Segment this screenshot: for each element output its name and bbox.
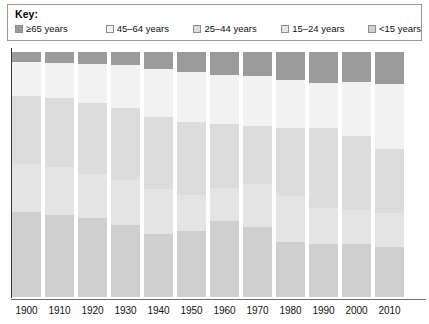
- x-axis-tick-label: 1990: [309, 302, 342, 320]
- legend-swatch-icon: [15, 25, 23, 33]
- bar-segment: [45, 63, 74, 99]
- bar-segment: [276, 52, 305, 80]
- bar-segment: [111, 225, 140, 297]
- bar-column[interactable]: [144, 52, 177, 297]
- bar-segment: [177, 195, 206, 231]
- bar-segment: [309, 128, 338, 208]
- bar-segment: [144, 189, 173, 234]
- bar-column[interactable]: [375, 52, 408, 297]
- stacked-bar[interactable]: [276, 52, 305, 297]
- bar-segment: [111, 108, 140, 180]
- stacked-bar[interactable]: [12, 52, 41, 297]
- x-axis-tick-label: 2010: [375, 302, 408, 320]
- bar-segment: [78, 103, 107, 175]
- bar-segment: [78, 218, 107, 297]
- bar-segment: [243, 227, 272, 297]
- bar-segment: [177, 122, 206, 196]
- bar-column[interactable]: [276, 52, 309, 297]
- bar-segment: [12, 212, 41, 297]
- bar-segment: [210, 75, 239, 124]
- bar-segment: [243, 52, 272, 76]
- stacked-bar[interactable]: [309, 52, 338, 297]
- legend-item-15-24: 15–24 years: [281, 23, 368, 34]
- stacked-bar[interactable]: [342, 52, 371, 297]
- bar-segment: [243, 76, 272, 126]
- legend-item-label: 45–64 years: [117, 23, 169, 34]
- x-axis-tick-label: 1960: [210, 302, 243, 320]
- bar-column[interactable]: [177, 52, 210, 297]
- bar-column[interactable]: [45, 52, 78, 297]
- stacked-bar[interactable]: [375, 52, 404, 297]
- legend-swatch-icon: [193, 25, 201, 33]
- bar-column[interactable]: [342, 52, 375, 297]
- stacked-bar[interactable]: [144, 52, 173, 297]
- bar-segment: [276, 242, 305, 297]
- bar-column[interactable]: [309, 52, 342, 297]
- x-axis-tick-label: 1950: [177, 302, 210, 320]
- bar-segment: [78, 52, 107, 64]
- bar-segment: [276, 80, 305, 128]
- bar-segment: [177, 231, 206, 297]
- legend-item-45-64: 45–64 years: [106, 23, 194, 34]
- x-axis-tick-label: 1920: [78, 302, 111, 320]
- bar-segment: [78, 174, 107, 217]
- bar-segment: [375, 213, 404, 247]
- bar-column[interactable]: [111, 52, 144, 297]
- chart-legend: Key: ≥65 years 45–64 years 25–44 years 1…: [7, 4, 422, 41]
- stacked-bar[interactable]: [78, 52, 107, 297]
- bar-segment: [45, 52, 74, 63]
- x-axis-tick-label: 1930: [111, 302, 144, 320]
- bar-segment: [45, 98, 74, 167]
- bar-segment: [309, 83, 338, 129]
- legend-item-label: 15–24 years: [292, 23, 344, 34]
- stacked-bar[interactable]: [45, 52, 74, 297]
- bar-segment: [111, 180, 140, 225]
- bar-segment: [309, 208, 338, 244]
- bar-segment: [12, 96, 41, 164]
- bar-segment: [78, 64, 107, 103]
- x-axis-tick-label: 1910: [45, 302, 78, 320]
- x-axis-tick-label: 1900: [12, 302, 45, 320]
- legend-item-label: ≥65 years: [26, 23, 68, 34]
- bar-column[interactable]: [210, 52, 243, 297]
- bar-segment: [375, 52, 404, 84]
- stacked-bar[interactable]: [210, 52, 239, 297]
- bar-segment: [342, 136, 371, 209]
- stacked-bar-group: [12, 52, 426, 297]
- legend-item-65-plus: ≥65 years: [15, 23, 106, 34]
- bar-segment: [111, 52, 140, 65]
- bar-column[interactable]: [78, 52, 111, 297]
- bar-segment: [144, 117, 173, 189]
- bar-segment: [144, 69, 173, 118]
- bar-segment: [144, 52, 173, 69]
- bar-segment: [45, 167, 74, 215]
- x-axis-tick-label: 1970: [243, 302, 276, 320]
- bar-segment: [342, 244, 371, 297]
- x-axis-tick-label: 1980: [276, 302, 309, 320]
- bar-segment: [144, 234, 173, 297]
- legend-item-label: <15 years: [379, 23, 421, 34]
- bar-segment: [177, 72, 206, 122]
- bar-segment: [342, 210, 371, 244]
- bar-segment: [342, 52, 371, 82]
- bar-segment: [12, 164, 41, 212]
- bar-segment: [210, 52, 239, 75]
- legend-swatch-icon: [368, 25, 376, 33]
- bar-segment: [45, 215, 74, 297]
- stacked-bar[interactable]: [243, 52, 272, 297]
- bar-segment: [243, 184, 272, 227]
- x-axis-line: [11, 299, 426, 300]
- bar-segment: [342, 82, 371, 136]
- stacked-bar[interactable]: [177, 52, 206, 297]
- chart-plot-area: [0, 48, 429, 300]
- bar-segment: [375, 84, 404, 149]
- bar-segment: [375, 247, 404, 297]
- legend-title: Key:: [15, 8, 421, 20]
- bar-segment: [276, 196, 305, 242]
- bar-segment: [12, 52, 41, 62]
- bar-segment: [309, 52, 338, 83]
- stacked-bar[interactable]: [111, 52, 140, 297]
- bar-column[interactable]: [12, 52, 45, 297]
- bar-column[interactable]: [243, 52, 276, 297]
- bar-segment: [210, 221, 239, 297]
